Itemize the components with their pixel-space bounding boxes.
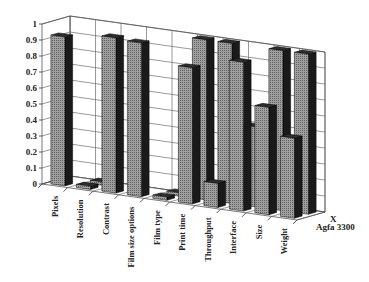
category-label: Contrast xyxy=(101,203,111,235)
category-label: Film type xyxy=(152,210,162,245)
bar xyxy=(255,103,277,214)
bar xyxy=(280,134,302,218)
category-label: Film size options xyxy=(126,206,136,268)
category-label: Pixels xyxy=(50,195,60,217)
y-tick-label: 0.7 xyxy=(26,67,38,77)
y-tick-label: 0.9 xyxy=(26,35,38,45)
bar xyxy=(229,58,251,211)
category-label: Throughput xyxy=(203,217,213,261)
category-label: Interface xyxy=(228,221,238,254)
category-label: Weight xyxy=(279,228,289,254)
bar xyxy=(102,34,124,193)
3d-bar-chart: 00.10.20.30.40.50.60.70.80.91PixelsResol… xyxy=(0,0,369,282)
y-tick-label: 0.5 xyxy=(26,99,38,109)
series-label: X xyxy=(330,214,337,224)
category-label: Size xyxy=(254,224,264,239)
bar xyxy=(178,64,200,204)
bar xyxy=(51,33,73,186)
bar xyxy=(204,179,226,207)
y-tick-label: 0.4 xyxy=(26,115,38,125)
y-tick-label: 0 xyxy=(33,179,38,189)
bar xyxy=(127,39,149,197)
y-tick-label: 0.1 xyxy=(26,163,38,173)
y-tick-label: 0.2 xyxy=(26,147,38,157)
y-tick-label: 0.8 xyxy=(26,51,38,61)
y-tick-label: 1 xyxy=(33,19,38,29)
y-tick-label: 0.6 xyxy=(26,83,38,93)
category-label: Resolution xyxy=(75,199,85,238)
category-label: Print time xyxy=(177,214,187,251)
y-tick-label: 0.3 xyxy=(26,131,38,141)
